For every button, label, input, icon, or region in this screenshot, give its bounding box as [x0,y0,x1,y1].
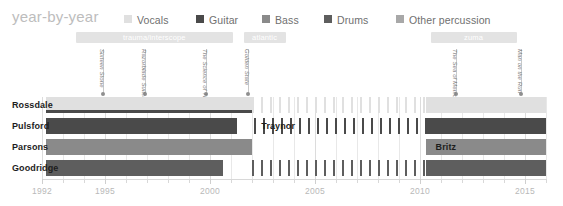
timeline-bar [252,97,426,113]
inline-member-label: Britz [433,139,457,155]
axis-tick [483,179,484,183]
era-band-atlantic: atlantic [244,32,286,43]
timeline-bar [426,97,546,113]
page-title: year-by-year [12,8,99,25]
legend-item-guitar: Guitar [196,10,238,24]
axis-tick [189,179,190,183]
legend-swatch-icon [396,15,404,23]
legend-swatch-icon [262,15,270,23]
timeline-bar [46,118,237,134]
axis-tick-label: 2000 [200,186,220,196]
axis-tick-label: 2010 [410,186,430,196]
row-label-rossdale: Rossdale [12,97,53,113]
plot-area: RossdalePulsfordTraynorParsonsBritzGoodr… [0,97,563,179]
album-dot-icon [246,92,250,96]
axis-tick-label: 2005 [305,186,325,196]
axis-tick [231,179,232,183]
album-title-label: Golden State [244,49,250,85]
chart-root: year-by-year VocalsGuitarBassDrumsOther … [0,0,563,206]
row-label-parsons: Parsons [12,139,48,155]
x-axis: 199219952000200520102015 [0,179,563,206]
era-band-zuma: zuma [431,32,517,43]
axis-tick [105,179,106,184]
row-label-goodridge: Goodridge [12,160,58,176]
axis-tick [525,179,526,184]
axis-tick [315,179,316,184]
era-band-trauma-interscope: trauma/interscope [76,32,234,43]
inline-member-label: Traynor [258,118,295,134]
album-dot-icon [101,92,105,96]
axis-tick [420,179,421,184]
axis-tick [84,179,85,183]
axis-tick [147,179,148,183]
axis-tick-label: 1992 [32,186,52,196]
legend-swatch-icon [124,15,132,23]
axis-tick [462,179,463,183]
axis-tick [273,179,274,183]
axis-tick-label: 2015 [515,186,535,196]
axis-tick [42,179,43,184]
series-row-goodridge: Goodridge [0,160,563,176]
legend-label: Vocals [137,14,169,26]
album-title-label: Sixteen Stone [99,49,105,88]
axis-tick [399,179,400,183]
album-title-label: Man on the Run [517,49,523,93]
axis-tick [63,179,64,183]
legend-swatch-icon [196,15,204,23]
axis-tick [441,179,442,183]
axis-tick [294,179,295,183]
timeline-bar-accent [46,110,252,113]
legend-swatch-icon [324,15,332,23]
timeline-bar [426,160,546,176]
legend-label: Guitar [209,14,238,26]
legend-item-bass: Bass [262,10,299,24]
axis-tick [336,179,337,183]
series-row-parsons: ParsonsBritz [0,139,563,155]
legend-item-vocals: Vocals [124,10,169,24]
axis-tick [252,179,253,183]
timeline-bar [252,160,426,176]
row-label-pulsford: Pulsford [12,118,49,134]
legend-item-drums: Drums [324,10,368,24]
axis-tick [210,179,211,184]
series-row-pulsford: PulsfordTraynor [0,118,563,134]
legend-label: Other percussion [409,14,491,26]
chart-header: year-by-year VocalsGuitarBassDrumsOther … [0,0,563,30]
legend-label: Bass [275,14,299,26]
axis-tick [504,179,505,183]
timeline-bar [46,160,222,176]
timeline-bar [46,139,252,155]
legend-label: Drums [337,14,368,26]
axis-tick [126,179,127,183]
axis-tick [168,179,169,183]
axis-tick [357,179,358,183]
legend-item-other-percussion: Other percussion [396,10,491,24]
axis-tick-label: 1995 [95,186,115,196]
axis-tick [546,179,547,183]
timeline-bar [426,118,546,134]
series-row-rossdale: Rossdale [0,97,563,113]
axis-tick [378,179,379,183]
